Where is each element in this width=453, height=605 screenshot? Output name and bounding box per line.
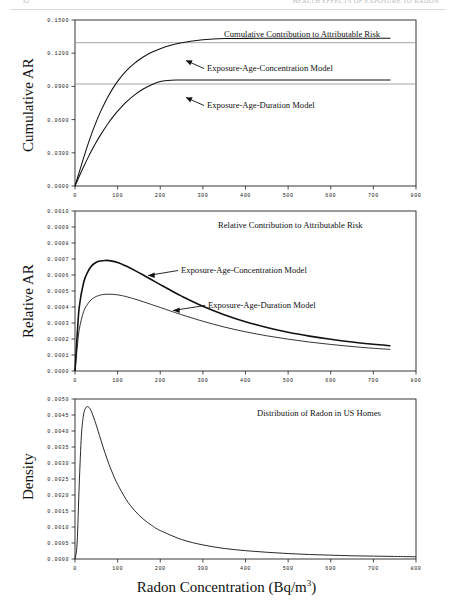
running-title: HEALTH EFFECTS OF EXPOSURE TO RADON (293, 0, 439, 4)
x-tick-label: 200 (155, 378, 166, 384)
x-tick-label: 300 (197, 378, 208, 384)
x-tick-label: 500 (283, 193, 294, 199)
x-tick-label: 800 (411, 566, 422, 572)
curve-exposure-age-duration (75, 80, 390, 186)
x-axis-ticks: 0100200300400500600700800 (73, 371, 421, 384)
x-tick-label: 200 (155, 566, 166, 572)
x-tick-label: 600 (325, 566, 336, 572)
y-tick-label: 0.1500 (47, 18, 69, 24)
x-tick-label: 700 (368, 566, 379, 572)
x-axis-ticks: 0100200300400500600700800 (73, 186, 421, 199)
x-tick-label: 0 (73, 378, 77, 384)
y-tick-label: 0.0005 (47, 541, 69, 547)
y-tick-label: 0.0900 (47, 84, 69, 90)
y-tick-label: 0.0050 (47, 397, 69, 403)
x-tick-label: 400 (240, 566, 251, 572)
annotation-label-eac: Exposure-Age-Concentration Model (207, 63, 333, 73)
x-tick-label: 700 (368, 378, 379, 384)
y-tick-label: 0.0005 (47, 289, 69, 295)
y-tick-label: 0.0020 (47, 493, 69, 499)
y-tick-label: 0.0010 (47, 209, 69, 215)
y-tick-label: 0.0300 (47, 151, 69, 157)
x-tick-label: 400 (240, 378, 251, 384)
y-axis-ticks: 0.00000.00050.00100.00150.00200.00250.00… (47, 397, 75, 563)
panel-title-cumulative: Cumulative Contribution to Attributable … (224, 29, 381, 39)
x-tick-label: 0 (73, 193, 77, 199)
plot-frame (75, 399, 416, 559)
y-tick-label: 0.0002 (47, 337, 69, 343)
y-tick-label: 0.0040 (47, 429, 69, 435)
x-tick-label: 600 (325, 378, 336, 384)
x-tick-label: 500 (283, 566, 294, 572)
relative-ar-plot: 0.00000.00010.00020.00030.00040.00050.00… (0, 205, 453, 391)
x-tick-label: 100 (112, 566, 123, 572)
header-divider (10, 9, 446, 10)
y-tick-label: 0.0008 (47, 241, 69, 247)
page-number: 32 (22, 0, 30, 5)
y-tick-label: 0.0600 (47, 118, 69, 124)
x-tick-label: 700 (368, 193, 379, 199)
y-tick-label: 0.1200 (47, 51, 69, 57)
annotation-label-ead: Exposure-Age-Duration Model (207, 100, 315, 110)
y-tick-label: 0.0015 (47, 509, 69, 515)
annotation-label-eac: Exposure-Age-Concentration Model (181, 265, 307, 275)
annotation-arrowhead-eac (148, 272, 155, 278)
y-tick-label: 0.0030 (47, 461, 69, 467)
y-tick-label: 0.0035 (47, 445, 69, 451)
x-axis-title-main: Radon Concentration (Bq/m (137, 579, 307, 595)
chart-panel-relative: 0.00000.00010.00020.00030.00040.00050.00… (0, 205, 453, 391)
panel-title-relative: Relative Contribution to Attributable Ri… (218, 220, 363, 230)
chart-panel-density: 0.00000.00050.00100.00150.00200.00250.00… (0, 393, 453, 578)
y-axis-title-density: Density (20, 453, 37, 500)
panel-title-density: Distribution of Radon in US Homes (257, 408, 382, 418)
x-tick-label: 800 (411, 193, 422, 199)
x-tick-label: 400 (240, 193, 251, 199)
x-axis-title-close: ) (311, 579, 316, 595)
y-tick-label: 0.0009 (47, 225, 69, 231)
y-tick-label: 0.0010 (47, 525, 69, 531)
x-tick-label: 500 (283, 378, 294, 384)
y-tick-label: 0.0001 (47, 353, 69, 359)
x-tick-label: 100 (112, 378, 123, 384)
x-axis-title: Radon Concentration (Bq/m3) (0, 578, 453, 596)
y-tick-label: 0.0000 (47, 557, 69, 563)
x-tick-label: 0 (73, 566, 77, 572)
annotation-label-ead: Exposure-Age-Duration Model (208, 300, 316, 310)
y-tick-label: 0.0025 (47, 477, 69, 483)
y-tick-label: 0.0045 (47, 413, 69, 419)
curve-exposure-age-concentration (75, 38, 390, 186)
y-tick-label: 0.0004 (47, 305, 69, 311)
x-axis-ticks: 0100200300400500600700800 (73, 559, 421, 572)
y-tick-label: 0.0006 (47, 273, 69, 279)
curve-exposure-age-concentration (75, 260, 390, 371)
x-tick-label: 300 (197, 193, 208, 199)
y-tick-label: 0.0007 (47, 257, 69, 263)
curve-radon-density (75, 407, 416, 559)
cumulative-ar-plot: 0.00000.03000.06000.09000.12000.1500 010… (0, 14, 453, 204)
density-plot: 0.00000.00050.00100.00150.00200.00250.00… (0, 393, 453, 578)
x-tick-label: 100 (112, 193, 123, 199)
y-axis-ticks: 0.00000.00010.00020.00030.00040.00050.00… (47, 209, 75, 375)
y-tick-label: 0.0000 (47, 369, 69, 375)
x-tick-label: 600 (325, 193, 336, 199)
y-tick-label: 0.0000 (47, 184, 69, 190)
y-tick-label: 0.0003 (47, 321, 69, 327)
x-tick-label: 300 (197, 566, 208, 572)
plot-frame (75, 211, 416, 371)
x-tick-label: 200 (155, 193, 166, 199)
y-axis-title-cumulative: Cumulative AR (20, 58, 37, 152)
y-axis-title-relative: Relative AR (20, 264, 37, 338)
y-axis-ticks: 0.00000.03000.06000.09000.12000.1500 (47, 18, 75, 190)
x-tick-label: 800 (411, 378, 422, 384)
chart-panel-cumulative: 0.00000.03000.06000.09000.12000.1500 010… (0, 14, 453, 204)
